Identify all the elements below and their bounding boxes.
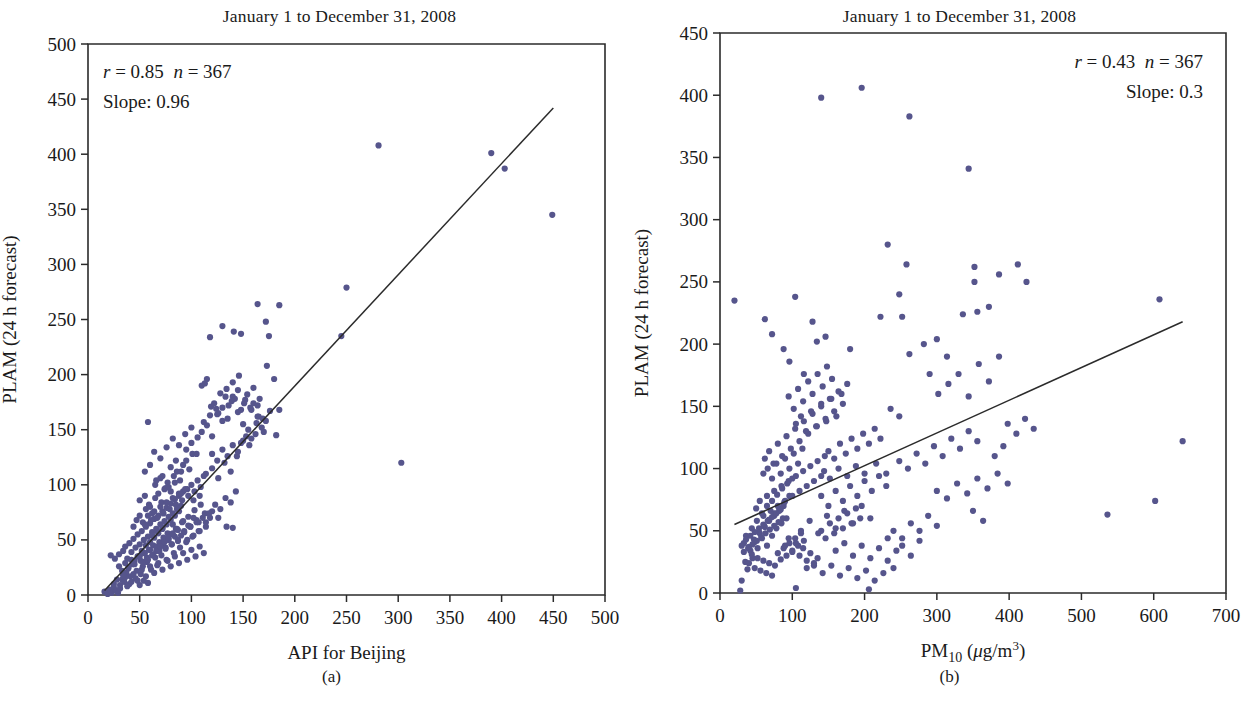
data-point	[793, 473, 799, 479]
x-tick-label: 200	[850, 605, 879, 626]
data-point	[955, 371, 961, 377]
data-point	[811, 478, 817, 484]
stats-annotation-r-n: r = 0.43 n = 367	[1074, 51, 1203, 72]
data-point	[180, 550, 186, 556]
data-point	[896, 413, 902, 419]
data-point	[927, 371, 933, 377]
data-point	[818, 493, 824, 499]
data-point	[807, 550, 813, 556]
data-point	[157, 455, 163, 461]
data-point	[192, 553, 198, 559]
data-point	[867, 555, 873, 561]
data-point	[208, 403, 214, 409]
data-point	[867, 515, 873, 521]
data-point	[176, 491, 182, 497]
data-point	[818, 95, 824, 101]
data-point	[841, 508, 847, 514]
data-point	[883, 483, 889, 489]
data-point	[763, 570, 769, 576]
data-point	[966, 428, 972, 434]
data-point	[815, 530, 821, 536]
data-point	[996, 353, 1002, 359]
data-point	[201, 550, 207, 556]
x-tick-label: 100	[177, 607, 206, 628]
data-point	[970, 508, 976, 514]
data-point	[184, 557, 190, 563]
data-point	[840, 498, 846, 504]
x-axis-title: PM10 (μg/m3)	[921, 638, 1025, 665]
data-point	[215, 410, 221, 416]
data-point	[757, 568, 763, 574]
y-tick-label: 100	[680, 458, 709, 479]
data-point	[769, 475, 775, 481]
x-axis-title: API for Beijing	[287, 642, 406, 663]
data-point	[793, 421, 799, 427]
data-point	[261, 429, 267, 435]
stats-annotation-r-n: r = 0.85 n = 367	[103, 61, 232, 82]
data-point	[256, 413, 262, 419]
data-point	[786, 478, 792, 484]
data-point	[254, 301, 260, 307]
data-point	[215, 475, 221, 481]
data-point	[896, 458, 902, 464]
data-point	[966, 166, 972, 172]
data-point	[186, 466, 192, 472]
data-point	[971, 264, 977, 270]
data-point	[814, 339, 820, 345]
data-point	[769, 498, 775, 504]
data-point	[181, 528, 187, 534]
y-tick-label: 400	[680, 85, 709, 106]
data-point	[813, 423, 819, 429]
data-point	[172, 480, 178, 486]
data-point	[876, 545, 882, 551]
data-point	[883, 470, 889, 476]
data-point	[860, 431, 866, 437]
data-point	[804, 483, 810, 489]
data-point	[217, 390, 223, 396]
data-point	[769, 533, 775, 539]
data-point	[782, 543, 788, 549]
data-point	[781, 346, 787, 352]
data-point	[903, 261, 909, 267]
data-point	[230, 379, 236, 385]
data-point	[193, 519, 199, 525]
data-point	[762, 316, 768, 322]
data-point	[182, 431, 188, 437]
data-point	[223, 386, 229, 392]
data-point	[250, 400, 256, 406]
data-point	[861, 470, 867, 476]
data-point	[163, 557, 169, 563]
x-tick-label: 300	[384, 607, 413, 628]
data-point	[130, 524, 136, 530]
panel-b-caption: (b)	[623, 667, 1246, 687]
data-point	[800, 468, 806, 474]
data-point	[244, 391, 250, 397]
data-point	[235, 409, 241, 415]
data-point	[848, 436, 854, 442]
data-point	[814, 458, 820, 464]
data-point	[1015, 261, 1021, 267]
data-point	[744, 566, 750, 572]
data-point	[811, 560, 817, 566]
data-point	[800, 545, 806, 551]
data-point	[861, 478, 867, 484]
data-point	[801, 371, 807, 377]
data-point	[266, 333, 272, 339]
data-point	[890, 528, 896, 534]
data-point	[765, 465, 771, 471]
data-point	[739, 577, 745, 583]
data-point	[772, 563, 778, 569]
data-point	[1000, 443, 1006, 449]
data-point	[229, 398, 235, 404]
data-point	[228, 499, 234, 505]
data-point	[764, 493, 770, 499]
data-point	[163, 499, 169, 505]
data-point	[170, 435, 176, 441]
data-point	[1031, 426, 1037, 432]
data-point	[807, 463, 813, 469]
data-point	[219, 418, 225, 424]
y-axis-title: PLAM (24 h forecast)	[631, 229, 653, 397]
data-point	[906, 351, 912, 357]
data-point	[783, 433, 789, 439]
data-point	[180, 518, 186, 524]
